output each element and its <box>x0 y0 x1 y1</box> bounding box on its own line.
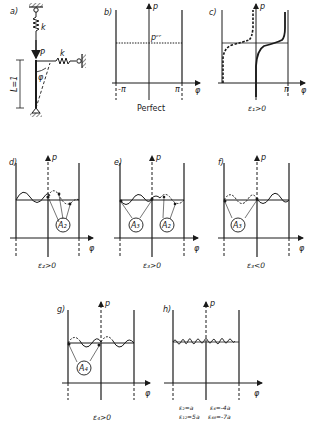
panel-e-x-axis-label: φ <box>194 244 200 253</box>
panel-h-caption-1-right: ε₄=-4a <box>210 404 231 411</box>
panel-d-x-axis-label: φ <box>89 244 95 253</box>
pin-top-icon <box>34 8 38 12</box>
panel-e-tag: e) <box>114 158 122 167</box>
panel-h-y-axis-label: p <box>209 299 215 308</box>
load-label: P <box>40 49 45 58</box>
panel-h-tag: h) <box>163 305 171 314</box>
panel-e-bubble-1: A₃ <box>130 221 140 230</box>
panel-e-bubble-2: A₂ <box>161 221 171 230</box>
panel-f-tag: f) <box>218 158 224 167</box>
imperfect-curve-dashed <box>223 10 253 83</box>
side-spring-icon <box>53 58 76 64</box>
pin-side-icon <box>77 59 81 63</box>
panel-b-caption: Perfect <box>137 104 165 113</box>
figure-canvas: a) k P k φ L=1 b) <box>0 0 319 426</box>
panel-c-caption: ε₁>0 <box>248 104 266 113</box>
top-spring-label: k <box>41 23 46 32</box>
panel-g-eps4: g) A₄ p φ ε₄>0 <box>57 299 151 422</box>
panel-b-x-axis-label: φ <box>195 86 201 95</box>
panel-f-caption: ε₃<0 <box>247 261 265 270</box>
panel-h-x-axis-label: φ <box>254 389 260 398</box>
panel-d-y-axis-label: p <box>51 153 57 162</box>
imperfect-curve-solid <box>256 12 285 97</box>
panel-e-caption: ε₃>0 <box>143 261 161 270</box>
panel-c-y-axis-label: p <box>259 2 265 11</box>
panel-d-caption: ε₂>0 <box>38 261 56 270</box>
panel-c-x-axis-label: φ <box>301 86 307 95</box>
length-label: L=1 <box>10 76 19 92</box>
panel-f-eps3-negative: f) A₃ p φ ε₃<0 <box>218 153 305 270</box>
panel-d-eps2: d) A₂ p φ ε₂>0 <box>9 153 95 270</box>
panel-f-bubble-label: A₃ <box>232 221 242 230</box>
panel-f-x-axis-label: φ <box>299 244 305 253</box>
panel-h-caption-1-left: ε₂=a <box>179 404 194 411</box>
panel-a-column-model: a) k P k φ L=1 <box>10 3 86 117</box>
tick-neg-pi: -π <box>118 85 126 94</box>
panel-h-caption-2-right: ε₄₈=-7a <box>208 413 231 420</box>
panel-f-y-axis-label: p <box>260 153 266 162</box>
panel-b-tag: b) <box>104 8 112 17</box>
panel-e-y-axis-label: p <box>155 153 161 162</box>
side-spring-label: k <box>60 49 65 58</box>
angle-label: φ <box>38 73 44 82</box>
panel-h-caption-2-left: ε₁₂=5a <box>179 413 200 420</box>
panel-e-eps3-positive: e) A₃ A₂ p φ ε₃>0 <box>114 153 200 270</box>
panel-g-tag: g) <box>57 305 65 314</box>
panel-g-x-axis-label: φ <box>145 389 151 398</box>
panel-a-tag: a) <box>10 7 18 16</box>
panel-c-tick-pi: π <box>284 85 289 94</box>
panel-g-y-axis-label: p <box>104 299 110 308</box>
critical-load-label: pᶜʳ <box>150 33 162 42</box>
panel-h-mixed: h) p φ ε₂=a ε₄=-4a ε₁₂=5a ε₄₈=-7a <box>163 299 262 420</box>
panel-g-caption: ε₄>0 <box>93 413 111 422</box>
top-spring-icon <box>33 12 39 40</box>
ground-bottom-icon <box>30 113 42 117</box>
panel-d-bubble-label: A₂ <box>57 221 67 230</box>
ground-side-icon <box>82 54 86 68</box>
panel-b-y-axis-label: p <box>152 2 158 11</box>
panel-b-perfect: b) p pᶜʳ -π π φ Perfect <box>104 2 201 113</box>
panel-c-eps1: c) p π φ ε₁>0 <box>209 2 307 113</box>
panel-g-bubble-label: A₄ <box>78 364 88 373</box>
panel-c-tag: c) <box>209 8 217 17</box>
tick-pi: π <box>175 85 180 94</box>
